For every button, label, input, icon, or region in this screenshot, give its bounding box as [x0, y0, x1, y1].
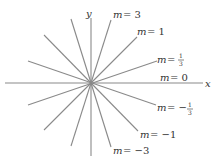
svg-text:=: = — [167, 54, 175, 65]
y-axis-label: y — [85, 8, 92, 19]
svg-text:1: 1 — [179, 52, 183, 59]
label-m3: m = 3 — [113, 9, 141, 20]
label-m-neg3: m = −3 — [113, 145, 149, 156]
svg-text:= 1: = 1 — [147, 26, 165, 37]
svg-text:1: 1 — [188, 101, 192, 108]
label-m1: m = 1 — [137, 26, 165, 37]
svg-text:= 3: = 3 — [123, 9, 141, 20]
x-axis-label: x — [205, 78, 211, 89]
label-m0: m = 0 — [160, 72, 188, 83]
svg-text:= −1: = −1 — [150, 129, 176, 140]
svg-text:m: m — [157, 54, 166, 65]
label-m-neg1: m = −1 — [140, 129, 176, 140]
label-m-third: m = 1 3 — [157, 52, 184, 67]
svg-text:m: m — [160, 72, 169, 83]
svg-text:m: m — [113, 9, 122, 20]
svg-text:= 0: = 0 — [170, 72, 188, 83]
svg-text:m: m — [140, 129, 149, 140]
svg-text:m: m — [113, 145, 122, 156]
svg-text:m: m — [137, 26, 146, 37]
slope-diagram: y x m = 3 m = 1 m = 1 3 m = 0 m = − 1 3 … — [0, 0, 215, 159]
svg-text:m: m — [157, 102, 166, 113]
svg-text:3: 3 — [188, 109, 192, 116]
label-m-neg-third: m = − 1 3 — [157, 101, 193, 116]
svg-text:= −3: = −3 — [123, 145, 149, 156]
svg-text:= −: = − — [167, 102, 187, 113]
svg-text:3: 3 — [179, 60, 183, 67]
